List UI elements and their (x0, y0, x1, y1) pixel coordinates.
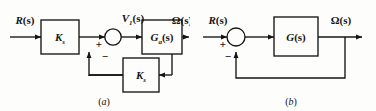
output-signal-label: Ω(s) (172, 14, 190, 27)
input-signal-label: R(s) (208, 14, 228, 27)
summing-junction (227, 28, 245, 46)
sum-output-signal-label: V1(s) (122, 12, 145, 27)
input-signal-label: R(s) (15, 14, 35, 27)
summing-junction (105, 29, 121, 45)
sum-sign-positive: + (220, 38, 226, 50)
figure-caption-a: (a) (98, 96, 110, 108)
output-signal-label: Ω(s) (331, 14, 352, 27)
plant-block-label: G(s) (286, 31, 306, 44)
sum-sign-negative: − (225, 50, 231, 62)
block-diagram-b: R(s) G(s) Ω(s) + − (b) (190, 0, 376, 111)
block-diagram-a: R(s) Ks V1(s) Ga(s) Ω(s) Ks + (0, 0, 190, 111)
figure-canvas: R(s) Ks V1(s) Ga(s) Ω(s) Ks + (0, 0, 376, 111)
figure-caption-b: (b) (285, 96, 297, 108)
sum-sign-negative: − (102, 50, 108, 62)
sum-sign-positive: + (96, 38, 102, 50)
